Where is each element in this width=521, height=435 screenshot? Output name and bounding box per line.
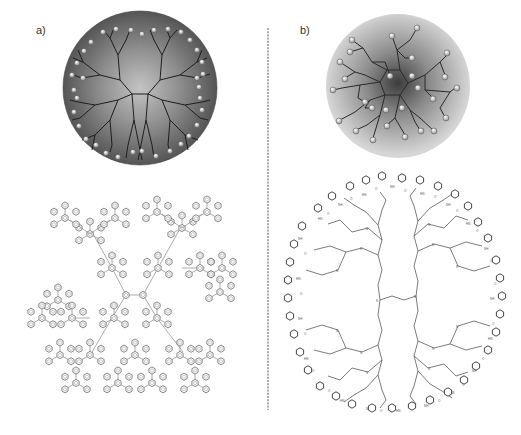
phenyl-rings-b (284, 172, 505, 412)
svg-text:N: N (456, 325, 458, 329)
svg-text:HN: HN (340, 399, 344, 403)
svg-text:O: O (312, 369, 315, 373)
svg-text:O: O (328, 389, 331, 393)
svg-text:N: N (360, 247, 362, 251)
svg-text:N: N (432, 347, 434, 351)
svg-text:O: O (380, 409, 383, 413)
svg-text:N: N (428, 223, 430, 227)
svg-text:N: N (456, 265, 458, 269)
svg-text:N: N (414, 295, 416, 299)
svg-text:N: N (366, 371, 368, 375)
svg-text:HN: HN (318, 217, 322, 221)
panel-b-structure: NN NN NN NN NN NN NN HNO NHO HNO NHO HNO… (284, 172, 505, 413)
svg-text:O: O (327, 212, 330, 216)
svg-text:N: N (432, 243, 434, 247)
svg-text:HN: HN (396, 409, 400, 413)
svg-text:N: N (428, 367, 430, 371)
svg-text:O: O (494, 282, 497, 286)
svg-text:HN: HN (488, 337, 492, 341)
svg-text:HN: HN (466, 222, 470, 226)
svg-text:HN: HN (420, 192, 424, 196)
svg-text:O: O (304, 252, 307, 256)
svg-text:O: O (404, 189, 407, 193)
svg-text:O: O (476, 229, 479, 233)
svg-text:NH: NH (298, 237, 302, 241)
svg-text:O: O (456, 209, 459, 213)
svg-text:NH: NH (446, 203, 450, 207)
svg-text:N: N (336, 329, 338, 333)
svg-text:NH: NH (424, 404, 428, 408)
svg-text:NH: NH (484, 247, 488, 251)
svg-text:N: N (376, 299, 378, 303)
svg-text:NH: NH (338, 203, 342, 207)
svg-text:O: O (375, 187, 378, 191)
panel-a-schematic (63, 11, 217, 165)
panel-a-structure (28, 196, 236, 393)
svg-text:HN: HN (362, 193, 366, 197)
svg-text:N: N (366, 227, 368, 231)
svg-text:N: N (336, 269, 338, 273)
svg-text:O: O (438, 399, 441, 403)
svg-text:O: O (482, 357, 485, 361)
svg-text:NH: NH (390, 185, 394, 189)
figure-canvas: NN NN NN NN NN NN NN HNO NHO HNO NHO HNO… (0, 0, 521, 435)
svg-text:NH: NH (490, 297, 494, 301)
panel-b-schematic (326, 14, 470, 158)
svg-text:O: O (434, 195, 437, 199)
svg-text:O: O (492, 322, 495, 326)
svg-text:O: O (350, 197, 353, 201)
svg-text:HN: HN (304, 357, 308, 361)
svg-text:NH: NH (298, 317, 302, 321)
svg-text:N: N (360, 351, 362, 355)
svg-text:O: O (304, 332, 307, 336)
svg-text:HN: HN (296, 277, 300, 281)
svg-text:O: O (300, 292, 303, 296)
